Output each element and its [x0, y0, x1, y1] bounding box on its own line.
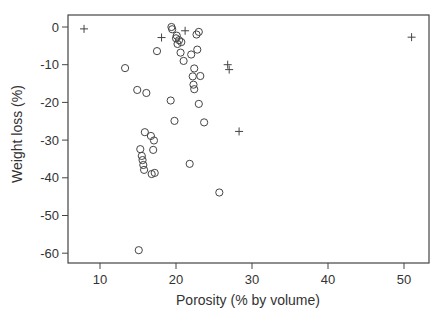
- x-tick-label: 40: [321, 272, 335, 287]
- x-tick-label: 20: [169, 272, 183, 287]
- x-tick-label: 50: [397, 272, 411, 287]
- y-tick-label: -50: [40, 208, 59, 223]
- point-circle: [201, 119, 208, 126]
- y-tick-label: -40: [40, 170, 59, 185]
- plot-frame: [68, 15, 429, 263]
- point-circle: [195, 100, 202, 107]
- point-circle: [143, 89, 150, 96]
- point-circle: [191, 86, 198, 93]
- point-circle: [167, 97, 174, 104]
- point-circle: [186, 160, 193, 167]
- point-circle: [137, 146, 144, 153]
- y-tick-label: 0: [52, 20, 59, 35]
- point-circle: [177, 49, 184, 56]
- point-plus: [80, 25, 88, 33]
- y-tick-label: -10: [40, 57, 59, 72]
- point-plus: [235, 127, 243, 135]
- point-circle: [140, 166, 147, 173]
- point-circle: [135, 247, 142, 254]
- point-plus: [224, 61, 232, 69]
- point-circle: [188, 51, 195, 58]
- x-tick-label: 10: [93, 272, 107, 287]
- axes: 10203040500-10-20-30-40-50-60: [40, 15, 429, 287]
- y-tick-label: -30: [40, 133, 59, 148]
- point-circle: [189, 73, 196, 80]
- point-plus: [408, 33, 416, 41]
- point-plus: [181, 27, 189, 35]
- data-points: [80, 23, 416, 253]
- point-plus: [158, 34, 166, 42]
- point-circle: [197, 72, 204, 79]
- point-circle: [216, 189, 223, 196]
- point-circle: [153, 48, 160, 55]
- point-circle: [121, 64, 128, 71]
- point-circle: [194, 46, 201, 53]
- y-axis-title: Weight loss (%): [9, 85, 25, 183]
- point-circle: [134, 86, 141, 93]
- point-circle: [191, 65, 198, 72]
- x-tick-label: 30: [245, 272, 259, 287]
- x-axis-title: Porosity (% by volume): [176, 292, 320, 308]
- point-plus: [225, 66, 233, 74]
- point-circle: [150, 146, 157, 153]
- scatter-chart: 10203040500-10-20-30-40-50-60 Porosity (…: [0, 0, 441, 324]
- point-circle: [171, 117, 178, 124]
- y-tick-label: -60: [40, 246, 59, 261]
- y-tick-label: -20: [40, 95, 59, 110]
- point-circle: [180, 57, 187, 64]
